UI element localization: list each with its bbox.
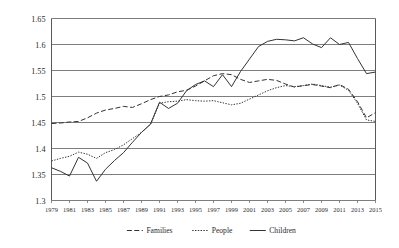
x-tick-label: 1987: [117, 206, 131, 213]
legend-label-families: Families: [146, 226, 172, 235]
x-tick-label: 2003: [261, 206, 274, 213]
x-tick-label: 2009: [315, 206, 328, 213]
legend-label-children: Children: [269, 226, 296, 235]
chart-canvas: 1.651.61.551.51.451.41.351.3 19791981198…: [0, 0, 399, 248]
x-tick-label: 1999: [225, 206, 238, 213]
gridlines: [52, 19, 376, 201]
legend-label-people: People: [212, 226, 233, 235]
x-tick-label: 2015: [369, 206, 382, 213]
x-tick-label: 1979: [45, 206, 58, 213]
x-tick-label: 1983: [81, 206, 94, 213]
x-tick-label: 1997: [207, 206, 221, 213]
line-chart: 1.651.61.551.51.451.41.351.3 19791981198…: [0, 0, 399, 248]
x-tick-label: 2001: [243, 206, 256, 213]
x-tick-label: 2007: [297, 206, 311, 213]
x-tick-label: 1981: [63, 206, 76, 213]
x-tick-label: 1993: [171, 206, 184, 213]
y-tick-label: 1.45: [31, 119, 45, 128]
y-tick-label: 1.6: [35, 41, 45, 50]
y-tick-label: 1.5: [35, 93, 45, 102]
series-line-families: [52, 74, 376, 124]
data-series-layer: [52, 38, 376, 182]
x-tick-label: 1995: [189, 206, 202, 213]
y-axis-tick-labels: 1.651.61.551.51.451.41.351.3: [31, 15, 45, 206]
y-tick-label: 1.35: [31, 171, 45, 180]
series-line-children: [52, 38, 376, 182]
y-tick-label: 1.55: [31, 67, 45, 76]
axes: [52, 19, 376, 201]
x-tick-label: 1989: [135, 206, 148, 213]
x-tick-label: 2011: [333, 206, 346, 213]
y-tick-label: 1.4: [35, 145, 45, 154]
y-tick-label: 1.65: [31, 15, 45, 24]
x-axis-tick-labels: 1979198119831985198719891991199319951997…: [45, 201, 382, 213]
chart-legend: FamiliesPeopleChildren: [127, 226, 296, 235]
x-tick-label: 1985: [99, 206, 112, 213]
x-tick-label: 2005: [279, 206, 292, 213]
x-tick-label: 2013: [351, 206, 364, 213]
x-tick-label: 1991: [153, 206, 166, 213]
y-tick-label: 1.3: [35, 197, 45, 206]
